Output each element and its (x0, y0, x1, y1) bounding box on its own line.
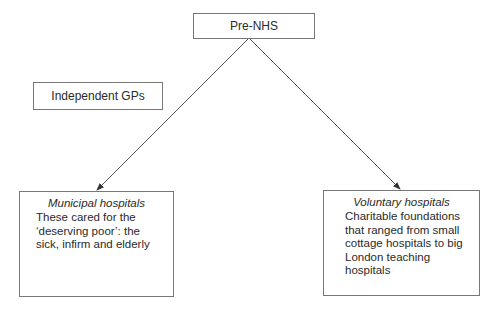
pre-nhs-node: Pre-NHS (193, 13, 315, 39)
municipal-hospitals-title: Municipal hospitals (20, 197, 173, 209)
voluntary-hospitals-description: Charitable foundations that ranged from … (345, 210, 475, 278)
voluntary-hospitals-title: Voluntary hospitals (324, 196, 479, 208)
municipal-hospitals-node: Municipal hospitals These cared for the … (19, 191, 174, 297)
arrow-to-municipal (97, 38, 249, 190)
voluntary-hospitals-node: Voluntary hospitals Charitable foundatio… (323, 190, 480, 296)
independent-gps-label: Independent GPs (51, 89, 144, 103)
municipal-hospitals-description: These cared for the ‘deserving poor’: th… (36, 211, 166, 252)
arrow-to-voluntary (249, 38, 400, 189)
pre-nhs-label: Pre-NHS (230, 19, 278, 33)
independent-gps-node: Independent GPs (33, 82, 163, 110)
